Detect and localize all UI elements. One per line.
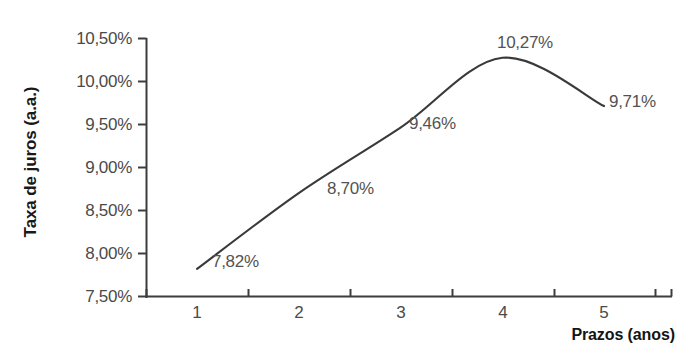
- data-label-year-1: 7,82%: [212, 252, 259, 272]
- x-axis-group: [146, 289, 672, 297]
- data-label-year-2: 8,70%: [327, 179, 374, 199]
- data-label-year-3: 9,46%: [409, 114, 456, 134]
- data-label-year-5: 9,71%: [609, 92, 656, 112]
- y-axis-group: [138, 38, 147, 298]
- data-label-year-4: 10,27%: [497, 33, 553, 53]
- yield-curve-chart: a Estrutura a Termo da Taxa de Juros Tax…: [0, 0, 690, 358]
- yield-curve-line: [197, 58, 604, 269]
